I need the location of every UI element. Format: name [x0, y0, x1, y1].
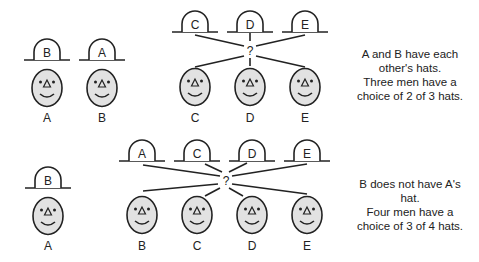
hat-icon: C: [174, 140, 220, 161]
man-label: C: [193, 239, 202, 253]
bottom-choice-group: A C D E ? B C D E: [119, 140, 330, 253]
hat-label: D: [246, 18, 255, 32]
caption-line: other's hats.: [343, 61, 477, 75]
top-choice-group: C D E ? C D E: [172, 11, 328, 125]
man-label: C: [191, 111, 200, 125]
hat-icon: A: [119, 140, 165, 161]
smiley-face-icon: [32, 70, 62, 107]
smiley-face-icon: [180, 69, 210, 106]
smiley-face-icon: [290, 69, 320, 106]
hat-label: A: [98, 46, 106, 60]
smiley-face-icon: [87, 70, 117, 107]
hat-label: E: [301, 18, 309, 32]
hat-icon: C: [172, 11, 218, 32]
bottom-caption: B does not have A's hat. Four men have a…: [343, 177, 477, 233]
man-label: E: [301, 111, 309, 125]
man-label: B: [98, 111, 106, 125]
hat-icon: B: [25, 167, 71, 188]
caption-line: hat.: [343, 191, 477, 205]
smiley-face-icon: [235, 69, 265, 106]
caption-line: B does not have A's: [343, 177, 477, 191]
top-left-pair: B A A B: [24, 39, 125, 125]
hat-label: B: [43, 46, 51, 60]
top-caption: A and B have each other's hats. Three me…: [343, 47, 477, 103]
hat-icon: D: [227, 11, 273, 32]
man-label: A: [44, 239, 52, 253]
hat-icon: E: [282, 11, 328, 32]
smiley-face-icon: [127, 197, 157, 234]
smiley-face-icon: [292, 197, 322, 234]
question-mark: ?: [223, 174, 230, 188]
caption-line: Four men have a: [343, 205, 477, 219]
bottom-left-single: B A: [25, 167, 71, 253]
hat-label: C: [191, 18, 200, 32]
man-label: E: [303, 239, 311, 253]
caption-line: choice of 2 of 3 hats.: [343, 89, 477, 103]
hat-icon: D: [229, 140, 275, 161]
hat-label: B: [44, 174, 52, 188]
smiley-face-icon: [237, 197, 267, 234]
hat-icon: E: [284, 140, 330, 161]
hat-label: D: [248, 147, 257, 161]
man-label: B: [138, 239, 146, 253]
man-label: D: [246, 111, 255, 125]
caption-line: Three men have a: [343, 75, 477, 89]
hat-label: C: [193, 147, 202, 161]
caption-line: A and B have each: [343, 47, 477, 61]
man-label: D: [248, 239, 257, 253]
question-mark: ?: [247, 44, 254, 58]
caption-line: choice of 3 of 4 hats.: [343, 219, 477, 233]
hat-label: E: [303, 147, 311, 161]
smiley-face-icon: [33, 198, 63, 235]
hat-icon: B: [24, 39, 70, 60]
smiley-face-icon: [182, 197, 212, 234]
hat-icon: A: [79, 39, 125, 60]
man-label: A: [43, 111, 51, 125]
hat-label: A: [138, 147, 146, 161]
